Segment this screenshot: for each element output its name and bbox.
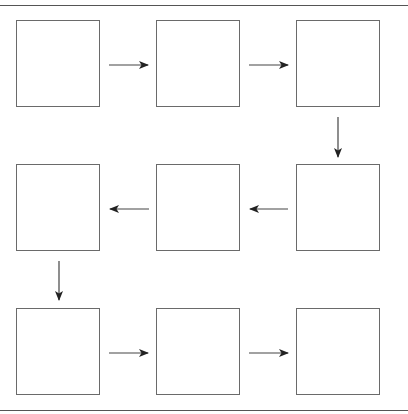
flow-arrows	[0, 0, 408, 414]
